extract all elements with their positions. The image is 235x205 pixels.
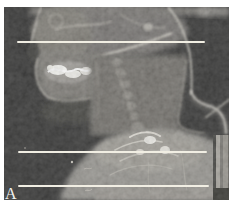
film-area: A xyxy=(4,2,230,202)
scout-radiograph-image: A xyxy=(0,0,235,205)
radiograph-figure-panel: A xyxy=(0,0,235,205)
panel-label: A xyxy=(5,185,17,202)
film-grain-texture xyxy=(4,7,229,200)
